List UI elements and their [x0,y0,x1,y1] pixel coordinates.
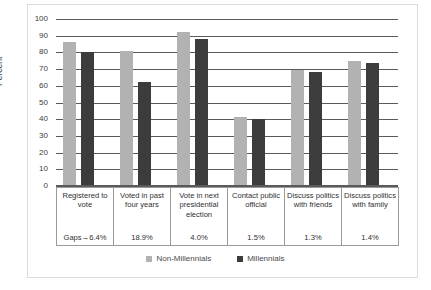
y-tick-label-30: 30 [8,132,48,140]
bar-group [170,19,227,186]
y-tick-label-70: 70 [8,65,48,73]
chart-figure: Percent 1009080706050403020100 Registere… [0,0,431,290]
bar [252,119,265,186]
legend-label: Non-Millennials [156,254,211,263]
y-tick-label-10: 10 [8,165,48,173]
category-gap-value: 1.3% [285,233,341,242]
category-name: Voted in past four years [114,191,170,210]
y-tick-label-100: 100 [8,15,48,23]
legend-item[interactable]: Non-Millennials [146,254,211,263]
bar [291,70,304,186]
category-gap-value: 18.9% [114,233,170,242]
y-tick-label-90: 90 [8,32,48,40]
category-gap-value: 4.0% [171,233,227,242]
bar [309,72,322,186]
category-label-table: Registered to voteGaps→6.4%Voted in past… [56,187,399,246]
bar [81,52,94,186]
bar-group [113,19,170,186]
legend-item[interactable]: Millennials [237,254,284,263]
category-gap-value: 1.4% [342,233,398,242]
category-gap-value: 1.5% [228,233,284,242]
legend-swatch-icon [146,256,152,262]
category-cell: Discuss politics with family1.4% [342,187,399,246]
bar [234,117,247,186]
category-name: Contact public official [228,191,284,210]
category-cell: Contact public official1.5% [228,187,285,246]
y-tick-label-50: 50 [8,99,48,107]
category-cell: Registered to voteGaps→6.4% [57,187,114,246]
plot-area [56,19,398,186]
bar [366,63,379,186]
y-tick-label-20: 20 [8,149,48,157]
bar [195,39,208,186]
category-cell: Vote in next presidential election4.0% [171,187,228,246]
y-tick-label-80: 80 [8,48,48,56]
legend-label: Millennials [247,254,284,263]
category-cell: Discuss politics with friends1.3% [285,187,342,246]
bar [120,51,133,186]
y-axis-ticks: 1009080706050403020100 [0,19,48,186]
bar [138,82,151,186]
y-tick-label-0: 0 [8,182,48,190]
legend-swatch-icon [237,256,243,262]
bar [177,32,190,186]
category-name: Vote in next presidential election [171,191,227,219]
bar-group [284,19,341,186]
category-name: Discuss politics with family [342,191,398,210]
x-axis-line [56,185,398,186]
bar [63,42,76,186]
chart-legend: Non-MillennialsMillennials [0,254,431,263]
category-cell: Voted in past four years18.9% [114,187,171,246]
category-name: Registered to vote [57,191,113,210]
y-tick-label-40: 40 [8,115,48,123]
y-tick-label-60: 60 [8,82,48,90]
bar-group [227,19,284,186]
bar [348,61,361,186]
category-name: Discuss politics with friends [285,191,341,210]
category-gap-value: Gaps→6.4% [57,233,113,242]
bar-group [341,19,398,186]
bar-group [56,19,113,186]
